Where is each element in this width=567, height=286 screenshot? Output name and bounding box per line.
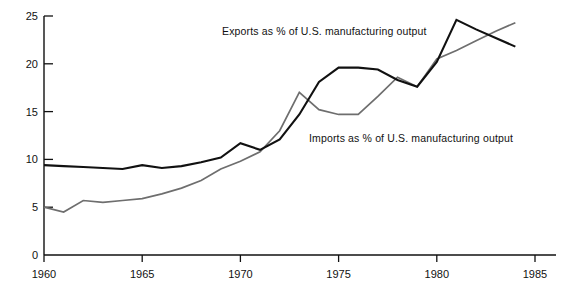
imports-series-annotation: Imports as % of U.S. manufacturing outpu… xyxy=(309,132,513,144)
y-tick-label: 25 xyxy=(26,10,38,22)
y-tick-label: 20 xyxy=(26,58,38,70)
data-series-group xyxy=(44,20,515,212)
y-tick-label: 5 xyxy=(32,201,38,213)
exports-series-annotation: Exports as % of U.S. manufacturing outpu… xyxy=(222,25,427,37)
x-axis-ticks: 196019651970197519801985 xyxy=(32,255,547,280)
imports-line xyxy=(44,23,515,212)
y-tick-label: 15 xyxy=(26,106,38,118)
exports-line xyxy=(44,20,515,169)
y-tick-label: 0 xyxy=(32,249,38,261)
x-tick-label: 1960 xyxy=(32,268,56,280)
x-tick-label: 1965 xyxy=(130,268,154,280)
x-tick-label: 1980 xyxy=(425,268,449,280)
y-tick-label: 10 xyxy=(26,153,38,165)
y-axis-ticks: 0510152025 xyxy=(26,10,53,261)
chart-container: 0510152025 196019651970197519801985 Expo… xyxy=(0,0,567,286)
x-tick-label: 1975 xyxy=(326,268,350,280)
x-tick-label: 1970 xyxy=(228,268,252,280)
x-tick-label: 1985 xyxy=(523,268,547,280)
